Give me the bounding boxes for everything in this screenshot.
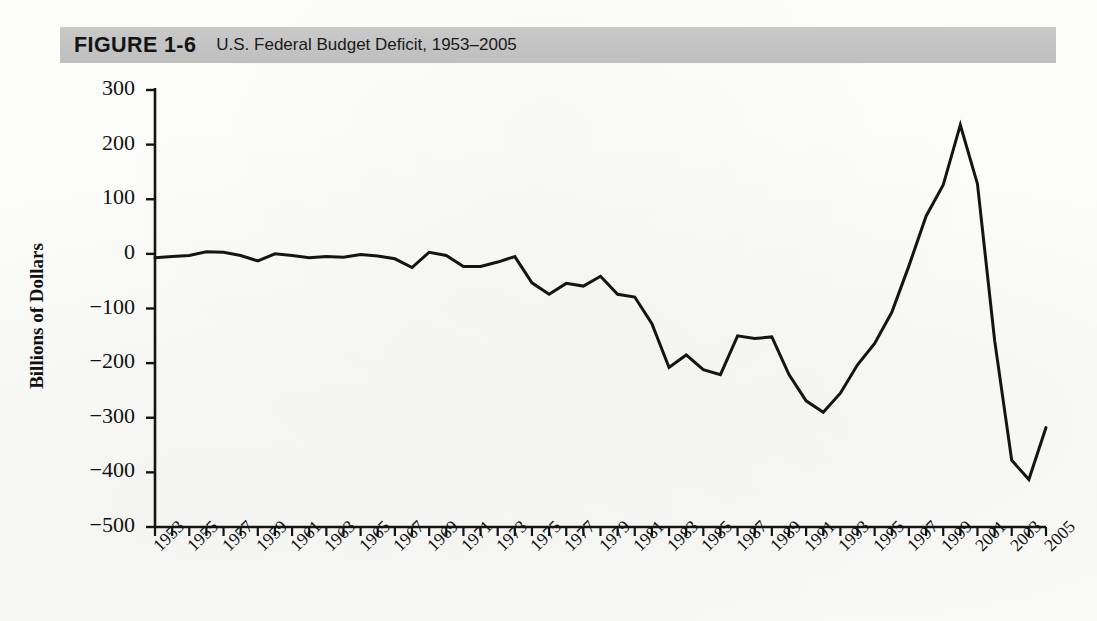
y-axis-tick-label: 200 — [55, 130, 135, 156]
y-axis-tick-label: −400 — [55, 457, 135, 483]
y-axis-tick-label: 100 — [55, 184, 135, 210]
chart-axes — [155, 88, 1046, 527]
y-axis-ticks — [146, 90, 155, 527]
y-axis-tick-label: 300 — [55, 75, 135, 101]
y-axis-tick-label: 0 — [55, 239, 135, 265]
deficit-data-line — [155, 125, 1046, 480]
chart-container: Billions of Dollars 3002001000−100−200−3… — [0, 0, 1097, 621]
y-axis-tick-label: −100 — [55, 294, 135, 320]
y-axis-tick-label: −300 — [55, 403, 135, 429]
y-axis-tick-label: −200 — [55, 348, 135, 374]
y-axis-tick-label: −500 — [55, 512, 135, 538]
